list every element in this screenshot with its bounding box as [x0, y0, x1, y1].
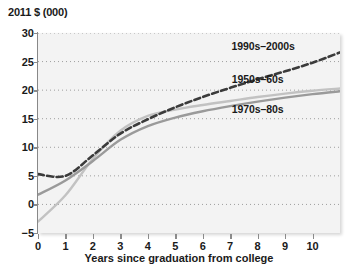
x-tick-mark: [65, 234, 66, 239]
y-tick-label: 15: [22, 113, 34, 125]
y-tick-label: −5: [21, 227, 34, 239]
x-tick-mark: [230, 234, 231, 239]
x-tick-mark: [313, 234, 314, 239]
y-tick-label: 25: [22, 56, 34, 68]
x-tick-mark: [148, 234, 149, 239]
x-tick-label: 2: [90, 240, 96, 252]
y-tick-label: 20: [22, 84, 34, 96]
x-tick-mark: [175, 234, 176, 239]
x-tick-label: 6: [200, 240, 206, 252]
x-tick-mark: [120, 234, 121, 239]
gridlines: [38, 33, 340, 204]
x-tick-label: 7: [227, 240, 233, 252]
x-tick-mark: [203, 234, 204, 239]
series-label: 1970s–80s: [232, 103, 284, 115]
y-tick-label: 30: [22, 27, 34, 39]
x-tick-label: 10: [306, 240, 318, 252]
x-tick-mark: [93, 234, 94, 239]
chart-container: 2011 $ (000) −5051015202530 012345678910…: [0, 0, 358, 272]
plot-area: [38, 33, 340, 233]
chart-svg: [38, 33, 340, 233]
y-axis-tick-labels: −5051015202530: [0, 0, 34, 272]
x-axis-title: Years since graduation from college: [0, 252, 358, 264]
x-tick-label: 0: [35, 240, 41, 252]
x-tick-label: 1: [62, 240, 68, 252]
series-label: 1950s–60s: [232, 73, 284, 85]
x-tick-mark: [285, 234, 286, 239]
series-lines: [38, 52, 340, 221]
x-tick-label: 8: [255, 240, 261, 252]
series-label: 1990s–2000s: [232, 40, 295, 52]
x-tick-mark: [258, 234, 259, 239]
x-tick-label: 4: [145, 240, 151, 252]
series-line: [38, 88, 340, 221]
x-tick-mark: [38, 234, 39, 239]
x-tick-label: 3: [117, 240, 123, 252]
y-tick-label: 10: [22, 141, 34, 153]
x-tick-label: 9: [282, 240, 288, 252]
x-tick-label: 5: [172, 240, 178, 252]
